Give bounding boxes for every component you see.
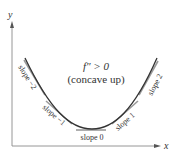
x-axis-arrow-icon — [154, 144, 161, 148]
concavity-description: (concave up) — [67, 73, 124, 86]
x-axis-label: x — [163, 140, 169, 151]
slope-label-1: slope 1 — [113, 111, 136, 133]
y-axis-arrow-icon — [10, 21, 14, 28]
slope-label-0: slope 0 — [81, 133, 104, 142]
y-axis-label: y — [7, 9, 13, 20]
concavity-diagram: y x f″ > 0 (concave up) slope −2 slope −… — [0, 0, 177, 155]
concavity-condition: f″ > 0 — [83, 60, 110, 72]
